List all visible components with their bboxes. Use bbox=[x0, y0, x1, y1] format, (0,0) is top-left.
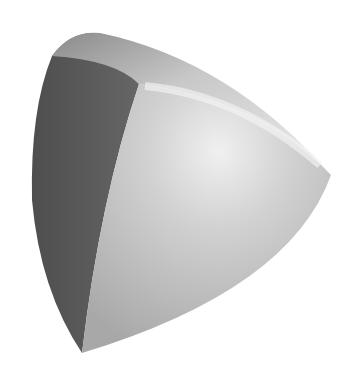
reuleaux-tetrahedron bbox=[0, 0, 352, 379]
